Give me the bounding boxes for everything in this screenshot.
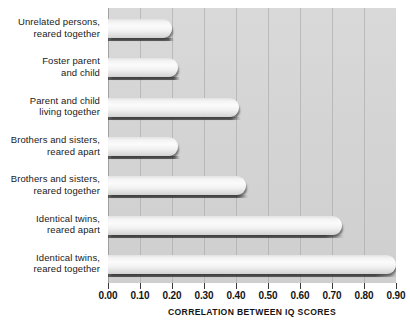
gridline	[236, 8, 237, 283]
x-axis-tick	[172, 283, 173, 289]
x-axis-tick-marks	[108, 283, 396, 289]
category-axis-labels: Unrelated persons,reared togetherFoster …	[0, 8, 104, 283]
category-label: Brothers and sisters,reared together	[0, 173, 100, 196]
bar	[108, 19, 172, 38]
x-axis-tick	[332, 283, 333, 289]
bar-baseline-shadow	[108, 274, 396, 277]
category-label-line: Brothers and sisters,	[0, 173, 100, 185]
category-label-line: Brothers and sisters,	[0, 134, 100, 146]
bar-baseline-shadow	[108, 235, 344, 238]
gridline	[268, 8, 269, 283]
x-axis-tick	[364, 283, 365, 289]
bar	[108, 137, 178, 156]
plot-area	[108, 8, 396, 283]
category-label-line: Identical twins,	[0, 252, 100, 264]
gridline	[300, 8, 301, 283]
category-label: Identical twins,reared apart	[0, 213, 100, 236]
category-label: Brothers and sisters,reared apart	[0, 134, 100, 157]
category-label-line: reared together	[0, 263, 100, 275]
category-label-line: reared together	[0, 28, 100, 40]
bar-baseline-shadow	[108, 117, 241, 120]
category-label-line: Parent and child	[0, 95, 100, 107]
bar	[108, 58, 178, 77]
category-label: Parent and childliving together	[0, 95, 100, 118]
category-label-line: Unrelated persons,	[0, 16, 100, 28]
x-axis-tick	[108, 283, 109, 289]
x-axis-tick	[236, 283, 237, 289]
category-label-line: reared together	[0, 185, 100, 197]
category-label: Unrelated persons,reared together	[0, 16, 100, 39]
category-label-line: reared apart	[0, 146, 100, 158]
bar-baseline-shadow	[108, 77, 180, 80]
gridline	[364, 8, 365, 283]
category-label: Identical twins,reared together	[0, 252, 100, 275]
category-label-line: Identical twins,	[0, 213, 100, 225]
x-axis-tick	[396, 283, 397, 289]
x-axis-tick-label: 0.90	[376, 290, 410, 301]
x-axis-tick	[140, 283, 141, 289]
category-label-line: reared apart	[0, 224, 100, 236]
x-axis-tick	[300, 283, 301, 289]
bar	[108, 98, 239, 117]
x-axis-tick-labels: 0.000.100.200.300.400.500.600.700.800.90	[0, 290, 405, 304]
bar-baseline-shadow	[108, 38, 174, 41]
category-label: Foster parentand child	[0, 55, 100, 78]
category-label-line: Foster parent	[0, 55, 100, 67]
x-axis-title: CORRELATION BETWEEN IQ SCORES	[108, 307, 396, 317]
gridline	[204, 8, 205, 283]
bar-baseline-shadow	[108, 156, 180, 159]
category-label-line: and child	[0, 67, 100, 79]
bar-baseline-shadow	[108, 195, 248, 198]
bar	[108, 216, 342, 235]
category-label-line: living together	[0, 106, 100, 118]
x-axis-tick	[268, 283, 269, 289]
gridline	[332, 8, 333, 283]
bar	[108, 176, 246, 195]
x-axis-tick	[204, 283, 205, 289]
bar	[108, 255, 396, 274]
